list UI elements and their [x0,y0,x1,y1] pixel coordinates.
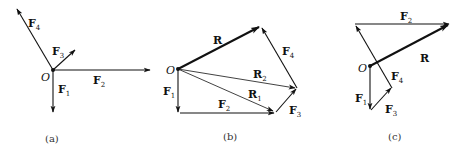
caption-c: (c) [388,131,402,142]
label-f4: F4 [391,70,404,85]
origin-label: O [166,64,175,77]
label-f4: F4 [282,45,295,60]
origin-label: O [41,71,50,84]
label-f2: F2 [93,74,105,89]
force-polygon-figure: O F4 F3 F2 F1 (a) O F1 F2 F3 F4 R1 R2 R … [0,0,463,150]
label-r2: R2 [253,68,267,83]
origin-point [368,64,372,68]
label-f2: F2 [218,98,230,113]
panel-a: O F4 F3 F2 F1 (a) [17,9,150,144]
panel-b: O F1 F2 F3 F4 R1 R2 R (b) [163,27,301,142]
origin-point [176,67,180,71]
vector-r [370,25,448,66]
origin-point [51,68,55,72]
label-r: R [213,34,223,47]
origin-label: O [358,62,367,75]
caption-b: (b) [223,131,237,142]
label-f2: F2 [400,10,412,25]
vector-r2 [178,69,295,88]
label-f3: F3 [289,104,301,119]
panel-c: O F1 F3 F4 F2 R (c) [355,10,449,142]
label-f1: F1 [163,85,175,100]
caption-a: (a) [45,133,59,144]
label-f4: F4 [28,17,41,32]
label-f1: F1 [58,83,70,98]
label-f3: F3 [385,103,397,118]
label-f3: F3 [52,45,64,60]
label-f1: F1 [355,92,367,107]
label-r: R [420,52,430,65]
label-r1: R1 [248,88,262,103]
